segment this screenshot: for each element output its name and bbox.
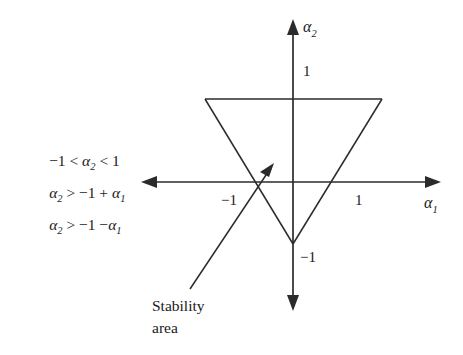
x-axis-right-arrow-icon bbox=[425, 176, 441, 188]
conditions-group: −1 < α2 < 1 α2 > −1 + α1 α2 > −1 −α1 bbox=[22, 152, 145, 237]
callout-leader-line bbox=[190, 172, 268, 289]
x-axis-label: α1 bbox=[424, 194, 438, 215]
x-axis-left-arrow-icon bbox=[141, 176, 157, 188]
stability-callout-text: Stability area bbox=[152, 297, 205, 336]
tick-label-x-negative-one: −1 bbox=[221, 192, 237, 208]
condition-2: α2 > −1 + α1 bbox=[22, 184, 145, 205]
y-axis-up-arrow-icon bbox=[287, 19, 299, 35]
callout-line-2: area bbox=[152, 319, 178, 336]
tick-label-x-one: 1 bbox=[355, 192, 363, 208]
tick-label-y-negative-one: −1 bbox=[300, 249, 316, 265]
y-axis-label: α2 bbox=[303, 18, 317, 39]
condition-3: α2 > −1 −α1 bbox=[22, 216, 141, 237]
callout-arrow-icon bbox=[260, 163, 274, 177]
tick-label-y-one: 1 bbox=[303, 63, 311, 79]
condition-1: −1 < α2 < 1 bbox=[22, 152, 139, 172]
stability-area-figure: α2 α1 1 −1 1 −1 Stability area −1 < α2 <… bbox=[0, 0, 463, 355]
callout-line-1: Stability bbox=[152, 297, 205, 314]
triangle-right-edge bbox=[293, 99, 382, 244]
triangle-left-edge bbox=[205, 99, 293, 244]
axes-group: α2 α1 bbox=[141, 18, 441, 311]
y-axis-down-arrow-icon bbox=[287, 295, 299, 311]
